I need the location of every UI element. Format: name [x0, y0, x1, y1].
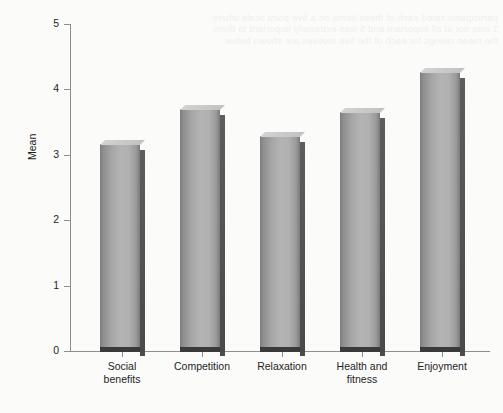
x-axis-label-0: Socialbenefits [77, 360, 167, 386]
bar-base-shadow [260, 347, 300, 352]
bar-base-shadow [100, 347, 140, 352]
y-axis-line [70, 24, 71, 352]
bar-top-face [100, 140, 145, 145]
x-axis-label-line-1: Health and [337, 360, 388, 372]
y-tick-label-3: 3 [53, 148, 59, 160]
bar-front-face [340, 112, 380, 351]
bleed-line-3: the mean ratings for each of the five mo… [28, 35, 498, 46]
y-tick-label-0: 0 [53, 344, 59, 356]
x-axis-label-3: Health andfitness [317, 360, 407, 386]
bleed-line-1: participants rated each of these items o… [28, 12, 498, 23]
bar-top-face [260, 132, 305, 137]
x-axis-label-line-1: Social [108, 360, 137, 372]
x-axis-label-1: Competition [157, 360, 247, 373]
bar-base-shadow [420, 347, 460, 352]
y-tick-label-4: 4 [53, 82, 59, 94]
bar-side-face [380, 118, 385, 356]
x-tick-3 [362, 352, 363, 357]
x-axis-label-2: Relaxation [237, 360, 327, 373]
y-tick-0: 0 [64, 351, 70, 352]
x-tick-2 [282, 352, 283, 357]
bar-top-face [340, 108, 385, 113]
y-tick-label-5: 5 [53, 17, 59, 29]
bar-relaxation [260, 137, 300, 351]
bar-side-face [220, 115, 225, 356]
bar-top-face [180, 105, 225, 110]
y-axis-title: Mean [26, 134, 38, 160]
y-tick-3: 3 [64, 155, 70, 156]
x-tick-0 [122, 352, 123, 357]
bar-top-face [420, 68, 465, 73]
page-bleed-through-artifact: participants rated each of these items o… [28, 12, 498, 60]
bar-front-face [260, 136, 300, 351]
bar-base-shadow [180, 347, 220, 352]
y-tick-4: 4 [64, 89, 70, 90]
bleed-line-2: 1 was not at all important and 5 was ext… [28, 23, 498, 34]
x-axis-label-4: Enjoyment [397, 360, 487, 373]
bar-competition [180, 110, 220, 351]
y-tick-5: 5 [64, 24, 70, 25]
bar-front-face [420, 72, 460, 351]
y-tick-2: 2 [64, 220, 70, 221]
x-axis-label-line-2: benefits [77, 373, 167, 386]
bar-front-face [180, 109, 220, 351]
y-tick-label-2: 2 [53, 213, 59, 225]
bar-front-face [100, 144, 140, 351]
bar-side-face [140, 150, 145, 356]
bar-health-and-fitness [340, 113, 380, 351]
bar-social-benefits [100, 145, 140, 351]
y-tick-1: 1 [64, 286, 70, 287]
bar-enjoyment [420, 73, 460, 351]
bar-base-shadow [340, 347, 380, 352]
x-axis-label-line-1: Relaxation [257, 360, 307, 372]
bar-side-face [300, 142, 305, 356]
x-tick-1 [202, 352, 203, 357]
chart-page: participants rated each of these items o… [0, 0, 503, 413]
y-tick-label-1: 1 [53, 279, 59, 291]
x-axis-label-line-2: fitness [317, 373, 407, 386]
x-axis-label-line-1: Competition [174, 360, 230, 372]
x-axis-label-line-1: Enjoyment [417, 360, 467, 372]
bar-side-face [460, 78, 465, 356]
x-tick-4 [442, 352, 443, 357]
